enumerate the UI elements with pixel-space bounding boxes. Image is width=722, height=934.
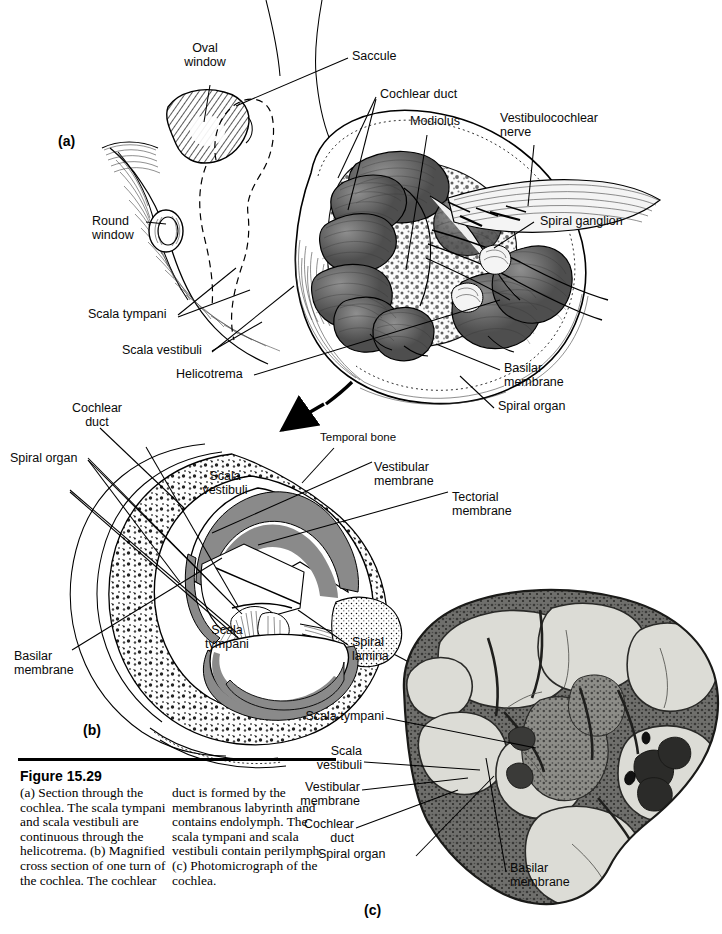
label-scala-tympani-c: Scala tympani bbox=[272, 710, 384, 724]
figure-number: Figure 15.29 bbox=[20, 768, 102, 784]
label-basilar-membrane-c: Basilar membrane bbox=[510, 862, 570, 889]
caption-column-2: duct is formed by the membranous labyrin… bbox=[172, 786, 332, 888]
caption-divider-rule bbox=[18, 758, 336, 761]
caption-column-1: (a) Section through the cochlea. The sca… bbox=[20, 786, 170, 888]
panel-label-c: (c) bbox=[364, 902, 381, 918]
